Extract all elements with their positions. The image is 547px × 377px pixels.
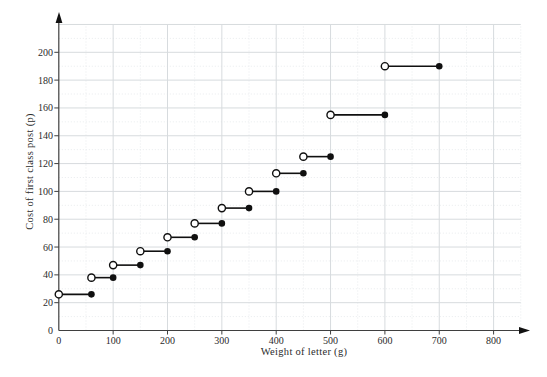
x-tick-label: 800 (486, 335, 501, 346)
y-tick-label: 200 (38, 47, 53, 58)
open-endpoint-marker (191, 220, 198, 227)
closed-endpoint-marker (137, 262, 144, 269)
y-tick-label: 80 (43, 214, 53, 225)
y-tick-label: 60 (43, 242, 53, 253)
x-tick-label: 100 (106, 335, 121, 346)
x-tick-label: 400 (269, 335, 284, 346)
closed-endpoint-marker (110, 274, 117, 281)
y-tick-label: 0 (48, 325, 53, 336)
closed-endpoint-marker (219, 220, 226, 227)
closed-endpoint-marker (273, 188, 280, 195)
x-tick-label: 700 (432, 335, 447, 346)
open-endpoint-marker (164, 234, 171, 241)
x-axis-title: Weight of letter (g) (204, 346, 404, 357)
closed-endpoint-marker (382, 112, 389, 119)
closed-endpoint-marker (88, 291, 95, 298)
y-axis-arrow-icon (56, 12, 63, 23)
y-tick-label: 140 (38, 130, 53, 141)
y-tick-label: 120 (38, 158, 53, 169)
x-axis-arrow-icon (519, 327, 530, 334)
y-tick-label: 160 (38, 102, 53, 113)
closed-endpoint-marker (300, 170, 307, 177)
open-endpoint-marker (110, 262, 117, 269)
open-endpoint-marker (218, 204, 225, 211)
step-chart-canvas: 0204060801001201401601802000100200300400… (0, 0, 547, 377)
open-endpoint-marker (55, 291, 62, 298)
x-tick-label: 200 (160, 335, 175, 346)
open-endpoint-marker (273, 170, 280, 177)
closed-endpoint-marker (246, 205, 253, 212)
closed-endpoint-marker (327, 153, 334, 160)
y-axis-title: Cost of first class post (p) (24, 82, 35, 262)
closed-endpoint-marker (191, 234, 198, 241)
open-endpoint-marker (381, 63, 388, 70)
x-tick-label: 300 (214, 335, 229, 346)
open-endpoint-marker (327, 111, 334, 118)
x-tick-label: 0 (56, 335, 61, 346)
closed-endpoint-marker (436, 63, 443, 70)
y-tick-label: 100 (38, 186, 53, 197)
y-tick-label: 40 (43, 269, 53, 280)
postage-step-chart-figure: 0204060801001201401601802000100200300400… (0, 0, 547, 377)
open-endpoint-marker (88, 274, 95, 281)
open-endpoint-marker (245, 188, 252, 195)
closed-endpoint-marker (164, 248, 171, 255)
open-endpoint-marker (300, 153, 307, 160)
x-tick-label: 500 (323, 335, 338, 346)
x-tick-label: 600 (377, 335, 392, 346)
open-endpoint-marker (137, 248, 144, 255)
y-tick-label: 180 (38, 75, 53, 86)
y-tick-label: 20 (43, 297, 53, 308)
